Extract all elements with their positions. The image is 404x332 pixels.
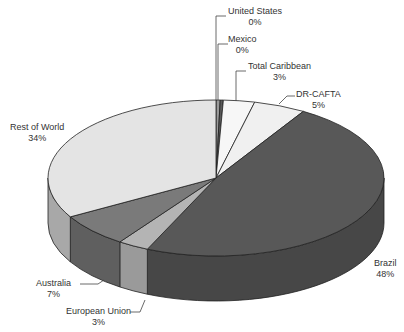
label-total-caribbean: Total Caribbean3%: [248, 61, 311, 83]
pie-slices: [48, 100, 384, 256]
leader-dr-cafta: [279, 96, 295, 104]
leader-united-states: [216, 16, 226, 100]
label-dr-cafta: DR-CAFTA5%: [296, 89, 341, 111]
leader-total-caribbean: [236, 71, 246, 101]
leader-mexico: [218, 44, 228, 100]
side-european-union: [120, 242, 148, 294]
label-mexico: Mexico0%: [228, 34, 257, 56]
label-australia: Australia7%: [36, 278, 71, 300]
leader-australia: [80, 280, 104, 284]
leader-european-union: [130, 300, 145, 312]
label-united-states: United States0%: [228, 6, 282, 28]
label-brazil: Brazil48%: [374, 258, 397, 280]
label-european-union: European Union3%: [66, 306, 131, 328]
label-rest-of-world: Rest of World34%: [10, 122, 64, 144]
